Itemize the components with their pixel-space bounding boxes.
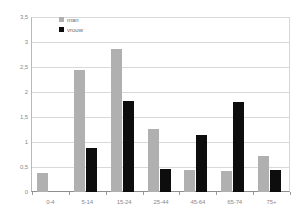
x-axis-tick-mark (32, 192, 33, 195)
x-axis-tick-label: 25-44 (141, 199, 181, 205)
legend-swatch-icon (59, 17, 64, 22)
legend-label: man (67, 17, 79, 23)
bar-group (32, 17, 69, 192)
x-axis-tick-mark (290, 192, 291, 195)
bars-layer (32, 17, 290, 192)
bar-vrouw-45-64 (196, 135, 207, 192)
bar-group (106, 17, 143, 192)
bar-group (253, 17, 290, 192)
bar-man-15-24 (111, 49, 122, 192)
bar-man-45-64 (184, 170, 195, 192)
legend-item-vrouw[interactable]: vrouw (59, 26, 83, 33)
y-axis-tick-label: 2 (4, 89, 28, 95)
bar-vrouw-65-74 (233, 102, 244, 192)
x-axis-tick-label: 5-14 (67, 199, 107, 205)
bar-man-0-4 (37, 173, 48, 192)
x-axis-tick-mark (143, 192, 144, 195)
x-axis-tick-label: 45-64 (178, 199, 218, 205)
legend-swatch-icon (59, 27, 64, 32)
bar-man-75+ (258, 156, 269, 192)
x-axis-tick-label: 15-24 (104, 199, 144, 205)
bar-chart: 00,511,522,533,5 0-45-1415-2425-4445-646… (0, 0, 301, 218)
bar-group (179, 17, 216, 192)
bar-group (143, 17, 180, 192)
x-axis-tick-mark (106, 192, 107, 195)
chart-legend: manvrouw (59, 16, 83, 33)
bar-vrouw-15-24 (123, 101, 134, 193)
bar-vrouw-75+ (270, 170, 281, 192)
bar-man-25-44 (148, 129, 159, 192)
x-axis-tick-label: 0-4 (30, 199, 70, 205)
bar-man-65-74 (221, 171, 232, 192)
bar-group (69, 17, 106, 192)
x-axis-tick-label: 75+ (252, 199, 292, 205)
bar-man-5-14 (74, 70, 85, 193)
x-axis-tick-mark (253, 192, 254, 195)
bar-vrouw-25-44 (160, 169, 171, 192)
y-axis-tick-label: 0 (4, 189, 28, 195)
y-axis-tick-label: 1 (4, 139, 28, 145)
y-axis-tick-label: 3,5 (4, 14, 28, 20)
x-axis-tick-mark (216, 192, 217, 195)
legend-label: vrouw (67, 27, 83, 33)
y-axis-tick-label: 3 (4, 39, 28, 45)
y-axis-tick-label: 2,5 (4, 64, 28, 70)
bar-vrouw-5-14 (86, 148, 97, 192)
y-axis-tick-label: 0,5 (4, 164, 28, 170)
x-axis-tick-mark (179, 192, 180, 195)
x-axis-tick-mark (69, 192, 70, 195)
bar-group (216, 17, 253, 192)
legend-item-man[interactable]: man (59, 16, 83, 23)
y-axis-tick-label: 1,5 (4, 114, 28, 120)
x-axis-tick-label: 65-74 (215, 199, 255, 205)
